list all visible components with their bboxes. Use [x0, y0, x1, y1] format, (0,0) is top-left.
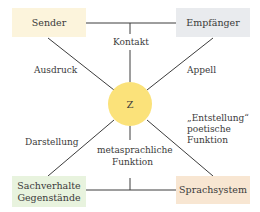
- expression-label: Ausdruck: [34, 65, 77, 76]
- sender-box: Sender: [12, 8, 86, 37]
- subject-matter-label-1: Sachverhalte: [17, 180, 80, 192]
- poetic-label-2: poetische: [187, 124, 231, 135]
- receiver-box: Empfänger: [176, 8, 250, 37]
- language-system-label: Sprachsystem: [179, 184, 247, 196]
- center-label: Z: [127, 99, 134, 110]
- metalinguistic-label-2: Funktion: [112, 157, 153, 168]
- subject-matter-label-2: Gegenstände: [17, 192, 80, 204]
- center-circle: Z: [108, 82, 152, 126]
- appeal-label: Appell: [187, 65, 216, 76]
- contact-label: Kontakt: [113, 37, 149, 48]
- metalinguistic-label-1: metasprachliche: [97, 145, 173, 156]
- poetic-label-1: „Entstellung“: [187, 113, 249, 124]
- language-system-box: Sprachsystem: [176, 176, 250, 204]
- receiver-label: Empfänger: [186, 17, 240, 29]
- subject-matter-box: Sachverhalte Gegenstände: [12, 176, 86, 207]
- representation-label: Darstellung: [25, 137, 79, 148]
- poetic-label-3: Funktion: [187, 135, 228, 146]
- sender-label: Sender: [32, 17, 67, 29]
